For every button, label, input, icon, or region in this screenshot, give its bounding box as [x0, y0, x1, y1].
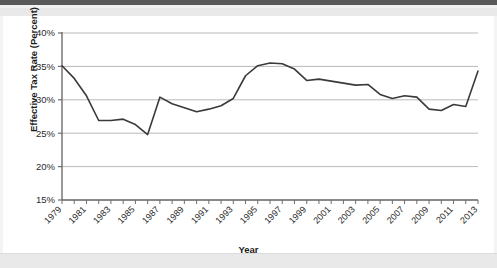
x-axis-tick-label: 1987 [140, 204, 161, 225]
gridlines-group [62, 33, 478, 200]
y-axis-tick-labels-group: 40%35%30%25%20%15% [36, 27, 56, 205]
y-axis-tick-label: 15% [36, 194, 56, 205]
x-axis-tick-label: 1979 [42, 204, 63, 225]
x-axis-tick-label: 1983 [91, 204, 112, 225]
data-series-line [62, 63, 478, 134]
x-axis-tick-label: 1991 [189, 204, 210, 225]
x-axis-tick-label: 2009 [409, 204, 430, 225]
x-axis-tick-label: 2003 [336, 204, 357, 225]
x-axis-tick-label: 1993 [213, 204, 234, 225]
x-axis-tick-label: 2001 [311, 204, 332, 225]
screenshot-root: 40%35%30%25%20%15% 197919811983198519871… [0, 0, 497, 268]
x-axis-tick-label: 2007 [385, 204, 406, 225]
x-axis-tick-label: 1995 [238, 204, 259, 225]
chart-svg: 40%35%30%25%20%15% 197919811983198519871… [0, 16, 497, 254]
y-axis-tick-label: 20% [36, 161, 56, 172]
bottom-gray-band [0, 254, 497, 268]
y-axis-title: Effective Tax Rate (Percent) [28, 0, 39, 145]
x-axis-tick-label: 2005 [360, 204, 381, 225]
upper-gray-band [0, 8, 497, 16]
y-axis-tick-label: 30% [36, 94, 56, 105]
y-axis-tick-label: 25% [36, 128, 56, 139]
y-axis-tick-label: 40% [36, 27, 56, 38]
x-axis-tick-label: 1997 [262, 204, 283, 225]
x-axis-tick-label: 1989 [165, 204, 186, 225]
line-chart: 40%35%30%25%20%15% 197919811983198519871… [0, 16, 497, 254]
y-axis-tick-label: 35% [36, 61, 56, 72]
x-axis-tick-label: 1981 [67, 204, 88, 225]
x-axis-tick-label: 2013 [458, 204, 479, 225]
x-axis-tick-label: 1999 [287, 204, 308, 225]
x-axis-tick-labels-group: 1979198119831985198719891991199319951997… [42, 204, 479, 225]
x-axis-tick-label: 1985 [116, 204, 137, 225]
x-axis-tick-label: 2011 [434, 204, 455, 225]
